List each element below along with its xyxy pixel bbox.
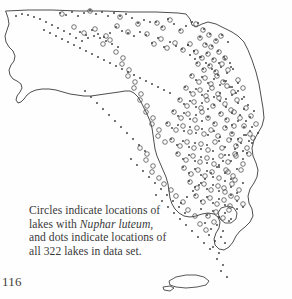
caption-line-4: all 322 lakes in data set.: [29, 245, 205, 259]
lake-marker-circle: [230, 182, 235, 187]
lake-marker-dot: [194, 58, 196, 60]
lake-marker-dot: [188, 154, 190, 156]
lake-marker-circle: [174, 194, 179, 199]
lake-marker-dot: [195, 132, 197, 134]
lake-marker-circle: [203, 43, 208, 48]
lake-marker-dot: [111, 43, 113, 45]
lake-marker-circle: [185, 104, 190, 109]
lake-marker-circle: [202, 68, 207, 73]
lake-marker-dot: [149, 21, 151, 23]
lake-marker-circle: [155, 21, 160, 26]
lake-marker-dot: [79, 31, 81, 33]
lake-marker-circle: [241, 86, 246, 91]
lake-marker-circle: [223, 102, 228, 107]
lake-marker-dot: [224, 212, 226, 214]
lake-marker-dot: [90, 96, 92, 98]
lake-marker-circle: [190, 74, 195, 79]
lake-marker-dot: [151, 83, 153, 85]
lake-marker-dot: [131, 17, 133, 19]
lake-marker-circle: [151, 116, 156, 121]
lake-marker-dot: [113, 12, 115, 14]
lake-marker-dot: [201, 102, 203, 104]
lake-marker-circle: [200, 56, 205, 61]
lake-marker-circle: [202, 182, 207, 187]
caption-line-2: lakes with Nuphar luteum,: [29, 218, 205, 232]
lake-marker-circle: [226, 160, 231, 165]
lake-marker-circle: [203, 174, 208, 179]
lake-marker-circle: [236, 78, 241, 83]
lake-marker-dot: [173, 23, 175, 25]
lake-marker-dot: [95, 13, 97, 15]
lake-marker-dot: [218, 216, 220, 218]
lake-marker-dot: [15, 15, 17, 17]
lake-marker-circle: [126, 74, 131, 79]
lake-marker-dot: [144, 150, 146, 152]
lake-marker-dot: [231, 132, 233, 134]
lake-marker-dot: [224, 242, 226, 244]
lake-marker-dot: [251, 126, 253, 128]
lake-marker-circle: [232, 124, 237, 129]
lake-marker-dot: [115, 65, 117, 67]
lake-marker-dot: [160, 188, 162, 190]
lake-marker-dot: [154, 182, 156, 184]
lake-marker-dot: [143, 19, 145, 21]
lake-marker-dot: [183, 130, 185, 132]
lake-marker-dot: [55, 35, 57, 37]
lake-marker-dot: [177, 124, 179, 126]
lake-marker-dot: [89, 9, 91, 11]
lake-marker-circle: [217, 176, 222, 181]
lake-marker-dot: [172, 200, 174, 202]
lake-marker-dot: [218, 198, 220, 200]
lake-marker-dot: [191, 21, 193, 23]
lake-marker-dot: [207, 108, 209, 110]
lake-marker-dot: [189, 118, 191, 120]
lake-marker-dot: [207, 134, 209, 136]
lake-marker-circle: [139, 92, 144, 97]
lake-marker-dot: [201, 120, 203, 122]
lake-marker-dot: [199, 36, 201, 38]
lake-marker-dot: [195, 88, 197, 90]
lake-marker-circle: [201, 28, 206, 33]
lake-marker-dot: [71, 11, 73, 13]
lake-marker-circle: [241, 202, 246, 207]
lake-marker-circle: [145, 104, 150, 109]
lake-marker-circle: [219, 112, 224, 117]
lake-marker-dot: [230, 178, 232, 180]
lake-marker-dot: [215, 39, 217, 41]
lake-marker-circle: [221, 80, 226, 85]
lake-marker-circle: [192, 100, 197, 105]
lake-marker-circle: [217, 50, 222, 55]
lake-marker-dot: [198, 184, 200, 186]
lake-marker-dot: [132, 138, 134, 140]
lake-marker-dot: [126, 132, 128, 134]
lake-marker-dot: [224, 154, 226, 156]
lake-marker-dot: [93, 35, 95, 37]
lake-marker-circle: [194, 50, 199, 55]
lake-marker-circle: [235, 196, 240, 201]
lake-marker-circle: [108, 38, 113, 43]
lake-marker-dot: [201, 128, 203, 130]
lake-marker-circle: [222, 198, 227, 203]
lake-marker-dot: [107, 15, 109, 17]
lake-marker-circle: [188, 180, 193, 185]
lake-marker-dot: [79, 47, 81, 49]
lake-marker-dot: [75, 37, 77, 39]
lake-marker-circle: [101, 42, 106, 47]
lake-marker-circle: [227, 138, 232, 143]
page-number-folio: 116: [2, 274, 22, 290]
lake-marker-dot: [247, 104, 249, 106]
lake-marker-circle: [176, 152, 181, 157]
lake-marker-dot: [195, 79, 197, 81]
lake-marker-dot: [85, 50, 87, 52]
lake-marker-dot: [43, 29, 45, 31]
lake-marker-circle: [241, 162, 246, 167]
lake-marker-circle: [132, 86, 137, 91]
lake-marker-dot: [212, 150, 214, 152]
lake-marker-dot: [195, 114, 197, 116]
lake-marker-circle: [195, 186, 200, 191]
lake-marker-dot: [166, 194, 168, 196]
lake-marker-dot: [101, 11, 103, 13]
lake-marker-dot: [213, 78, 215, 80]
lake-marker-circle: [114, 50, 119, 55]
lake-marker-circle: [198, 88, 203, 93]
